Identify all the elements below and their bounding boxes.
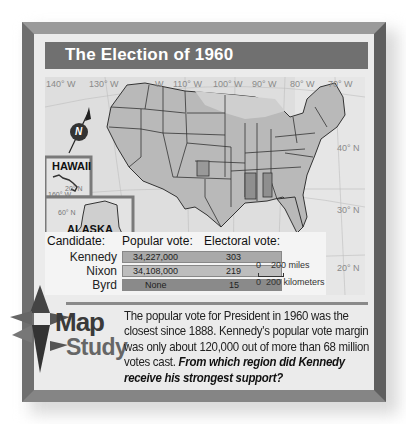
scale-km: 0 200 kilometers (256, 277, 325, 287)
candidate-kennedy: Kennedy (45, 250, 117, 264)
hawaii-label: HAWAII (52, 160, 91, 172)
title-bar: The Election of 1960 (45, 42, 368, 69)
byrd-electoral: 15 (229, 280, 239, 290)
lon-label: W (155, 79, 164, 89)
lon-label: 80° W (290, 79, 315, 89)
lon-label: 140° W (46, 79, 76, 89)
lat-label: 40° N (337, 143, 360, 153)
candidate-nixon: Nixon (45, 264, 117, 278)
scale-miles: 0 200 miles (256, 260, 310, 270)
page-title: The Election of 1960 (65, 45, 233, 65)
lat-label: 20° N (337, 263, 360, 273)
lat-label: 30° N (337, 205, 360, 215)
byrd-popular: None (145, 280, 167, 290)
map-study-badge-study: Study (66, 334, 127, 361)
lon-label: 100° W (213, 79, 243, 89)
header-popular: Popular vote: (122, 234, 193, 248)
header-candidate: Candidate: (47, 234, 105, 248)
kennedy-electoral: 303 (226, 252, 241, 262)
header-electoral: Electoral vote: (204, 234, 280, 248)
lon-label: 110° W (173, 79, 202, 89)
lon-label: 70° W (328, 79, 353, 89)
hawaii-lon: 160° W (48, 191, 71, 198)
alaska-lat: 60° N (58, 209, 76, 216)
nixon-electoral: 219 (226, 266, 241, 276)
map-study-text: The popular vote for President in 1960 w… (124, 309, 370, 386)
lon-label: 90° W (252, 79, 277, 89)
lon-label: 130° W (89, 79, 119, 89)
section-divider (66, 302, 368, 305)
kennedy-popular: 34,227,000 (133, 252, 178, 262)
compass-letter: N (75, 126, 82, 137)
nixon-popular: 34,108,000 (133, 266, 178, 276)
